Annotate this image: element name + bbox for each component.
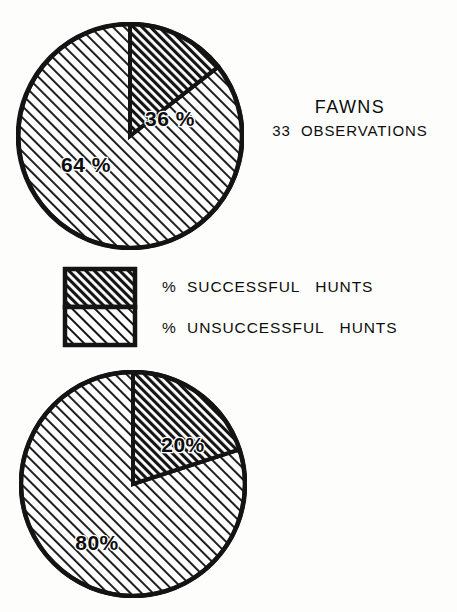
pie-graphic-fawns: 36 % 64 % [16,22,244,250]
caption-fawns: FAWNS 33 OBSERVATIONS [250,98,450,138]
pie-chart-figure: 36 % 64 % FAWNS 33 OBSERVATIONS % SUCCES… [0,0,457,612]
pie-slice-label-adults-successful: 20% [161,433,205,456]
caption-subtitle-fawns: 33 OBSERVATIONS [250,123,450,138]
pie-slice-label-adults-unsuccessful: 80% [75,531,119,554]
legend: % SUCCESSFUL HUNTS % UNSUCCESSFUL HUNTS [62,266,402,352]
legend-row-successful: % SUCCESSFUL HUNTS [162,266,457,307]
legend-labels: % SUCCESSFUL HUNTS % UNSUCCESSFUL HUNTS [162,266,457,348]
legend-swatch-unsuccessful [65,307,135,345]
legend-row-unsuccessful: % UNSUCCESSFUL HUNTS [162,307,457,348]
legend-swatches [62,266,138,348]
pie-chart-fawns: 36 % 64 % FAWNS 33 OBSERVATIONS [0,10,457,255]
caption-title-fawns: FAWNS [250,98,450,116]
pie-chart-adults: 20% 80% ADULTS 10 OBSERVATIONS [0,368,457,608]
legend-label-unsuccessful: % UNSUCCESSFUL HUNTS [162,319,397,337]
legend-label-successful: % SUCCESSFUL HUNTS [162,278,373,296]
pie-slice-label-fawns-unsuccessful: 64 % [61,153,111,176]
pie-slice-label-fawns-successful: 36 % [145,107,195,130]
pie-graphic-adults: 20% 80% [19,370,247,598]
legend-swatch-successful [65,269,135,307]
